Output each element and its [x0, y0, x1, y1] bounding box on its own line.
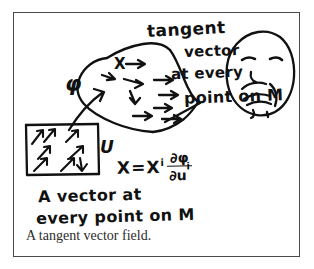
tangent-vector-formula: X = X i ∂φ ∂ui: [117, 150, 192, 183]
annotation-phi-symbol: φ: [65, 74, 81, 95]
formula-denominator-index: i: [186, 160, 190, 171]
annotation-point-on-m: point on M: [184, 87, 284, 106]
annotation-a-vector-at: A vector at: [38, 187, 142, 206]
formula-partial-derivative: ∂φ ∂ui: [167, 150, 193, 182]
annotation-tangent: tangent: [147, 19, 226, 40]
annotation-at-every: at every: [171, 65, 244, 83]
annotation-every-point-on-m: every point on M: [36, 207, 195, 227]
annotation-vector: vector: [184, 43, 240, 60]
formula-lhs: X: [117, 157, 130, 177]
annotation-chart-domain-u: U: [100, 139, 114, 156]
formula-equals: =: [131, 157, 146, 177]
figure-caption: A tangent vector field.: [26, 228, 151, 244]
formula-component-index: i: [160, 156, 164, 167]
annotation-vector-field-symbol: X: [114, 57, 126, 72]
figure-frame: tangent vector at every point on M φ X U…: [13, 12, 300, 257]
formula-component: X: [146, 157, 159, 177]
formula-denominator: ∂ui: [167, 165, 192, 183]
sketch-area: tangent vector at every point on M φ X U…: [14, 13, 299, 220]
formula-denominator-base: ∂u: [169, 167, 187, 183]
box-vector-arrows: [32, 129, 87, 171]
